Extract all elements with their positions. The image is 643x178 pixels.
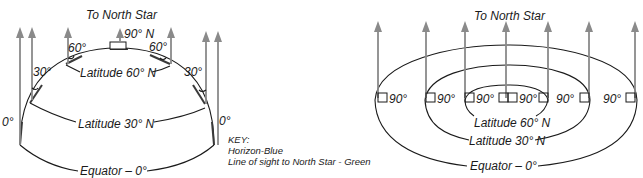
latitude-30-ellipse-left [425, 100, 469, 140]
angle-label-90-5: 90° [556, 92, 574, 106]
angle-label-30-left: 30° [33, 65, 51, 79]
equator-line-right [147, 145, 214, 171]
right-equator-label: Equator – 0° [470, 159, 537, 173]
line-of-sight-arrows-right [374, 21, 639, 98]
right-polar-diagram: To North Star 90° 90° 90° 90° 90° 90° La… [374, 9, 639, 173]
key-line-of-sight: Line of sight to North Star - Green [228, 156, 371, 167]
angle-label-60-right: 60° [149, 40, 167, 54]
left-hemisphere-diagram: To North Star 90° N 60° 60° 30° 30° 0° 0… [2, 8, 231, 178]
angle-label-90-2: 90° [437, 92, 455, 106]
north-star-diagram: To North Star 90° N 60° 60° 30° 30° 0° 0… [0, 0, 643, 178]
angle-label-90-6: 90° [603, 92, 621, 106]
latitude-60-label: Latitude 60° N [80, 66, 157, 80]
latitude-30-line-left [30, 103, 76, 122]
horizon-equator-right [212, 122, 214, 145]
right-title: To North Star [474, 9, 546, 23]
legend-key: KEY: Horizon-Blue Line of sight to North… [228, 134, 371, 167]
pole-label: 90° N [124, 27, 154, 41]
angle-label-90-4: 90° [519, 92, 537, 106]
angle-label-90-3: 90° [476, 92, 494, 106]
latitude-30-line-right [154, 108, 205, 122]
horizon-60-right [150, 55, 170, 64]
latitude-30-label: Latitude 30° N [78, 117, 155, 131]
angle-arc-60-right [160, 58, 166, 60]
right-latitude-60-label: Latitude 60° N [474, 116, 551, 130]
angle-label-90-1: 90° [389, 92, 407, 106]
latitude-60-line-left [66, 65, 80, 72]
angle-label-30-right: 30° [184, 65, 202, 79]
equator-label: Equator – 0° [80, 164, 147, 178]
angle-label-60-left: 60° [68, 41, 86, 55]
angle-label-0-left: 0° [2, 115, 14, 129]
pole-marker-box [110, 42, 126, 49]
left-title: To North Star [86, 8, 158, 22]
key-horizon: Horizon-Blue [228, 145, 283, 156]
key-title: KEY: [228, 134, 250, 145]
equator-line-left [20, 145, 78, 171]
angle-label-0-right: 0° [219, 114, 231, 128]
horizon-30-right [193, 85, 205, 104]
equator-ellipse-left [375, 100, 467, 166]
right-latitude-30-label: Latitude 30° N [469, 134, 546, 148]
